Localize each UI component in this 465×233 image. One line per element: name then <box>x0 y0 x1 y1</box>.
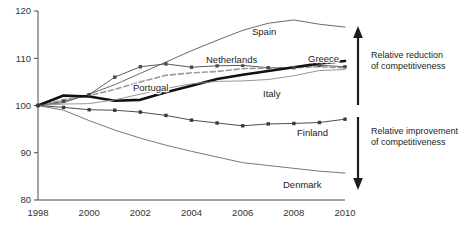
series-marker-netherlands <box>343 65 346 68</box>
series-marker-netherlands <box>113 75 116 78</box>
series-marker-netherlands <box>267 66 270 69</box>
x-tick-label: 1998 <box>27 207 48 218</box>
y-tick-label: 100 <box>15 100 31 111</box>
series-label-netherlands: Netherlands <box>206 54 257 65</box>
series-marker-finland <box>139 110 142 113</box>
relative-reduction-annotation: Relative reduction of competitiveness <box>371 50 463 72</box>
chart-axes <box>38 11 345 200</box>
series-marker-finland <box>36 104 39 107</box>
series-line-denmark <box>38 106 345 174</box>
series-marker-finland <box>343 118 346 121</box>
competitiveness-line-chart: 8090100110120 19982000200220042006200820… <box>0 0 465 233</box>
series-line-italy <box>38 70 345 106</box>
series-marker-finland <box>241 124 244 127</box>
series-marker-finland <box>87 108 90 111</box>
down-arrow-icon <box>353 117 363 190</box>
x-tick-label: 2004 <box>181 207 202 218</box>
series-marker-netherlands <box>318 64 321 67</box>
series-line-spain <box>38 20 345 106</box>
chart-svg: 8090100110120 19982000200220042006200820… <box>0 0 465 233</box>
series-marker-netherlands <box>87 93 90 96</box>
series-marker-finland <box>113 109 116 112</box>
y-tick-label: 80 <box>20 194 31 205</box>
x-tick-label: 2000 <box>79 207 100 218</box>
series-label-italy: Italy <box>263 88 281 99</box>
series-marker-finland <box>318 121 321 124</box>
series-marker-netherlands <box>292 66 295 69</box>
series-marker-netherlands <box>190 66 193 69</box>
up-arrow-icon <box>353 26 363 105</box>
x-tick-label: 2002 <box>130 207 151 218</box>
series-marker-netherlands <box>62 100 65 103</box>
series-marker-finland <box>267 122 270 125</box>
x-tick-label: 2010 <box>334 207 355 218</box>
relative-improvement-annotation: Relative improvement of competitiveness <box>371 126 463 148</box>
y-tick-label: 120 <box>15 5 31 16</box>
series-marker-finland <box>190 118 193 121</box>
series-marker-netherlands <box>164 62 167 65</box>
series-marker-finland <box>215 121 218 124</box>
y-tick-label: 110 <box>16 53 31 64</box>
y-tick-label: 90 <box>20 147 31 158</box>
series-line-finland <box>38 106 345 126</box>
series-marker-finland <box>292 122 295 125</box>
series-label-spain: Spain <box>252 26 276 37</box>
y-axis-tick-labels: 8090100110120 <box>15 5 31 205</box>
series-marker-netherlands <box>139 65 142 68</box>
x-axis-tick-labels: 1998200020022004200620082010 <box>27 207 355 218</box>
x-tick-label: 2006 <box>232 207 253 218</box>
x-tick-label: 2008 <box>283 207 304 218</box>
series-label-portugal: Portugal <box>133 82 168 93</box>
series-lines-group <box>38 20 345 173</box>
series-marker-finland <box>62 106 65 109</box>
series-label-denmark: Denmark <box>283 179 322 190</box>
series-labels-group: SpainNetherlandsPortugalGreeceItalyFinla… <box>133 26 339 190</box>
series-label-finland: Finland <box>297 127 328 138</box>
series-label-greece: Greece <box>308 53 339 64</box>
series-marker-finland <box>164 114 167 117</box>
